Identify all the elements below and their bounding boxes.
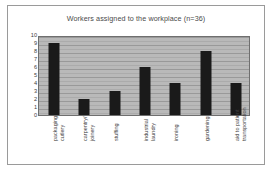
x-axis-label: ironing [173,95,180,141]
y-axis-tick: 3 [34,89,37,95]
y-axis-tick: 2 [34,97,37,103]
x-label-slot: stuffing [99,118,129,166]
y-axis-tick: 4 [34,81,37,87]
y-axis-tick: 7 [34,57,37,63]
x-label-slot: gardening [189,118,219,166]
x-label-slot: packagingcutlery [38,118,68,166]
y-axis-tick: 5 [34,73,37,79]
y-axis-tick: 10 [31,33,37,39]
y-axis-tick: 0 [34,113,37,119]
chart-title: Workers assigned to the workplace (n=36) [8,14,264,23]
y-axis: 109876543210 [27,36,37,116]
x-axis-label: aid to patienttransportation [234,95,247,141]
x-label-slot: industriallaundry [129,118,159,166]
y-axis-tick: 1 [34,105,37,111]
x-axis-label: gardening [204,95,211,141]
y-axis-tick: 6 [34,65,37,71]
y-axis-tick: 8 [34,49,37,55]
x-label-slot: carpentry/joinery [68,118,98,166]
x-label-slot: aid to patienttransportation [220,118,250,166]
x-axis-label: packagingcutlery [52,95,65,141]
figure-frame: Workers assigned to the workplace (n=36)… [7,5,265,165]
x-label-slot: ironing [159,118,189,166]
x-axis-label: carpentry/joinery [82,95,95,141]
x-axis-label: industriallaundry [143,95,156,141]
y-axis-tick: 9 [34,41,37,47]
x-axis-label: stuffing [113,95,120,141]
x-axis-labels: packagingcutlerycarpentry/joinerystuffin… [38,118,250,166]
